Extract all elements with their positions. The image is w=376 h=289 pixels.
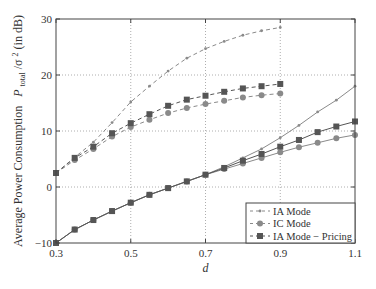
x-tick-label: 0.5 [124, 247, 138, 259]
square-marker [109, 208, 115, 214]
square-marker [146, 111, 152, 117]
dot-marker [185, 57, 188, 60]
square-marker [296, 137, 302, 143]
circle-marker [146, 117, 152, 123]
line-chart: 0.30.50.70.91.1−100102030 d Average Powe… [0, 0, 376, 289]
square-marker [184, 97, 190, 103]
square-marker [146, 192, 152, 198]
square-marker [277, 81, 283, 87]
circle-marker [221, 98, 227, 104]
x-tick-label: 0.9 [273, 247, 287, 259]
dot-marker [260, 29, 263, 32]
legend: IA ModeIC ModeIA Mode − Pricing [246, 203, 355, 243]
circle-marker [203, 101, 209, 107]
circle-marker [333, 135, 339, 141]
legend-label: IA Mode − Pricing [273, 231, 353, 242]
dot-marker [148, 85, 151, 88]
circle-marker [257, 221, 263, 227]
dot-marker [279, 136, 282, 139]
dot-marker [223, 40, 226, 43]
square-marker [90, 217, 96, 223]
square-marker [277, 144, 283, 150]
square-marker [109, 130, 115, 136]
dot-marker [204, 47, 207, 50]
y-axis-label-sup: 2 [11, 52, 20, 56]
dot-marker [241, 34, 244, 37]
square-marker [240, 85, 246, 91]
dot-marker [259, 210, 262, 213]
circle-marker [315, 140, 321, 146]
x-axis-label: d [203, 261, 210, 275]
circle-marker [165, 110, 171, 116]
dot-marker [316, 111, 319, 114]
legend-label: IA Mode [273, 206, 311, 217]
square-marker [90, 144, 96, 150]
y-axis-label-main: Average Power Consumption [11, 106, 25, 247]
dot-marker [111, 121, 114, 124]
y-tick-label: 20 [41, 69, 53, 81]
circle-marker [296, 144, 302, 150]
circle-marker [184, 105, 190, 111]
square-marker [259, 151, 265, 157]
x-tick-label: 1.1 [348, 247, 362, 259]
y-tick-label: 10 [41, 125, 53, 137]
square-marker [128, 120, 134, 126]
circle-marker [277, 149, 283, 155]
y-axis-label-rest: /σ [11, 59, 25, 69]
y-axis-label-unit: (in dB) [11, 15, 25, 49]
dot-marker [298, 124, 301, 127]
dot-marker [92, 141, 95, 144]
y-axis-label-sub: total [18, 71, 27, 86]
y-tick-label: 30 [41, 13, 53, 25]
square-marker [240, 158, 246, 164]
square-marker [257, 233, 263, 239]
x-tick-label: 0.7 [199, 247, 213, 259]
square-marker [165, 185, 171, 191]
circle-marker [277, 90, 283, 96]
y-axis-label: Average Power Consumption P total /σ 2 (… [7, 15, 28, 247]
series-line [56, 27, 280, 173]
y-tick-label: 0 [47, 181, 53, 193]
square-marker [72, 155, 78, 161]
square-marker [128, 200, 134, 206]
square-marker [221, 165, 227, 171]
square-marker [203, 93, 209, 99]
square-marker [221, 89, 227, 95]
square-marker [72, 227, 78, 233]
square-marker [165, 103, 171, 109]
square-marker [333, 124, 339, 130]
circle-marker [259, 92, 265, 98]
square-marker [315, 129, 321, 135]
legend-label: IC Mode [273, 218, 311, 229]
y-tick-label: −10 [35, 237, 53, 249]
dot-marker [335, 99, 338, 102]
dot-marker [129, 100, 132, 103]
circle-marker [240, 94, 246, 100]
square-marker [184, 178, 190, 184]
dot-marker [260, 148, 263, 151]
dot-marker [279, 26, 282, 29]
dot-marker [167, 70, 170, 73]
square-marker [259, 83, 265, 89]
square-marker [203, 172, 209, 178]
y-axis-label-symbol: P [11, 89, 25, 98]
